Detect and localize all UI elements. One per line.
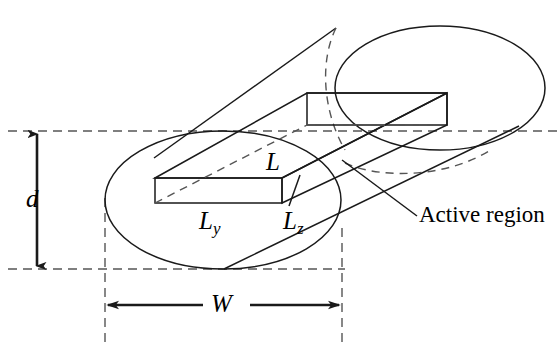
- label-Ly-base: L: [199, 207, 213, 234]
- label-Lz-subscript: z: [297, 219, 304, 238]
- dimension-label-Lz: Lz: [283, 208, 304, 237]
- figure-container: d W L Ly Lz Active region: [0, 0, 560, 351]
- diagram-canvas: [0, 0, 560, 351]
- label-Ly-subscript: y: [213, 219, 221, 238]
- dimension-label-d: d: [26, 186, 39, 211]
- annotation-active-region: Active region: [419, 203, 545, 226]
- label-Lz-base: L: [283, 207, 297, 234]
- active-region-leader-line: [342, 160, 417, 216]
- active-region-slab: [155, 93, 447, 203]
- dimension-label-Ly: Ly: [199, 208, 220, 237]
- dimension-label-L: L: [266, 149, 280, 174]
- dimension-label-W: W: [211, 291, 232, 316]
- slab-front-face: [155, 178, 282, 203]
